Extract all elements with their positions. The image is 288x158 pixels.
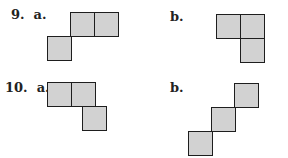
square-tile: [47, 82, 72, 107]
square-tile: [240, 38, 265, 63]
square-tile: [82, 106, 107, 131]
square-tile: [240, 14, 265, 39]
square-tile: [70, 12, 95, 37]
problem-10a-label: 10. a.: [5, 81, 50, 94]
square-tile: [211, 107, 236, 132]
square-tile: [94, 12, 119, 37]
problem-9b-label: b.: [170, 10, 184, 23]
square-tile: [234, 83, 259, 108]
problem-9a-label: 9. a.: [11, 8, 47, 21]
square-tile: [188, 131, 213, 156]
square-tile: [216, 14, 241, 39]
square-tile: [47, 36, 72, 61]
square-tile: [71, 82, 96, 107]
problem-10b-label: b.: [170, 81, 184, 94]
